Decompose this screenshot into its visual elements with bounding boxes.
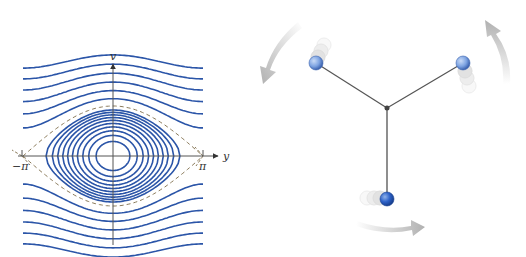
open-trajectory	[23, 244, 203, 257]
tick-label-neg-pi: −π	[12, 160, 29, 173]
rotor-arm-right	[387, 63, 463, 108]
separatrix-extension	[195, 147, 203, 156]
rotor-arm-left	[316, 63, 387, 108]
x-axis-label: y	[222, 150, 230, 163]
figure-canvas: v y −π π	[0, 0, 526, 257]
phase-portrait: v y −π π	[12, 50, 230, 257]
ball-right	[456, 56, 470, 70]
separatrix-extension	[12, 150, 22, 156]
ball-left	[309, 56, 323, 70]
ball-bottom	[380, 192, 394, 206]
rotation-arrow-bottom-icon	[356, 220, 425, 236]
rotation-arrow-left-icon	[260, 22, 302, 84]
rotor-hub	[385, 106, 390, 111]
rotation-arrow-right-icon	[485, 20, 510, 84]
tick-label-pi: π	[198, 160, 207, 173]
rotor-illustration	[260, 20, 510, 236]
y-axis-label: v	[110, 50, 117, 63]
